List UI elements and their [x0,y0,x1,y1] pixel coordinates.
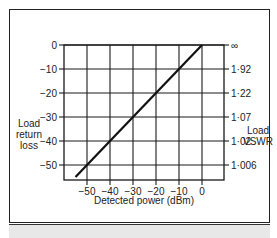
y-axis-title-line3: loss [20,140,38,151]
y-tick-label: −20 [40,88,57,99]
y-tick-label: −50 [40,160,57,171]
y-tick-label: 0 [51,40,57,51]
y2-tick-label: 1·22 [231,88,251,99]
plot-border [64,45,224,180]
y2-axis-title-line1: Load [247,125,269,136]
y-axis-ticks: 0−10−20−30−40−50 [40,40,64,171]
y2-tick-label: 1·006 [231,160,257,171]
y2-axis-title-line2: VSWR [243,136,273,147]
x-tick-label: 0 [199,186,205,197]
y-tick-label: −10 [40,64,57,75]
y-tick-label: −40 [40,136,57,147]
y2-tick-label: ∞ [231,40,238,51]
y-axis-title-line2: return [16,129,42,140]
chart: 0−10−20−30−40−50 ∞1·921·221·071·021·006 … [0,0,277,238]
y2-tick-label: 1·92 [231,64,251,75]
series-line [76,45,203,177]
y-axis-title-line1: Load [18,118,40,129]
y2-tick-label: 1·07 [231,112,251,123]
y2-axis-ticks: ∞1·921·221·071·021·006 [224,40,257,171]
data-series [76,45,203,177]
chart-grid [64,45,224,180]
x-axis-title: Detected power (dBm) [94,195,194,206]
y-tick-label: −30 [40,112,57,123]
